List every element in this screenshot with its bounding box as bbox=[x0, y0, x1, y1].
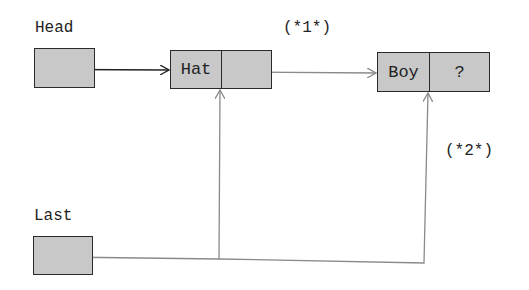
head-pointer-box bbox=[34, 48, 95, 88]
node-boy: Boy ? bbox=[377, 52, 490, 92]
last-to-boy-arrow bbox=[219, 93, 428, 263]
annotation-step-2: (*2*) bbox=[445, 143, 493, 159]
node-hat-value: Hat bbox=[171, 51, 221, 88]
node-boy-value: Boy bbox=[378, 53, 429, 91]
node-boy-link: ? bbox=[429, 53, 489, 91]
node-hat-link bbox=[221, 51, 271, 88]
annotation-step-1: (*1*) bbox=[283, 20, 331, 36]
node-hat: Hat bbox=[170, 50, 272, 89]
last-pointer-box bbox=[33, 236, 93, 275]
head-label: Head bbox=[35, 20, 73, 36]
last-label: Last bbox=[34, 208, 72, 224]
last-to-hat-arrow bbox=[61, 90, 220, 259]
